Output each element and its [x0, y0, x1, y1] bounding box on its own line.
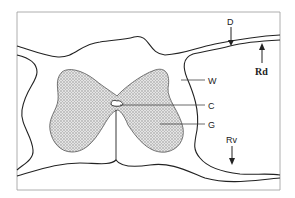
label-C: C	[208, 101, 215, 111]
label-Rv: Rv	[226, 135, 237, 145]
label-D: D	[227, 17, 234, 27]
gray-matter	[50, 69, 184, 152]
dura-outer-top	[17, 35, 280, 57]
spinal-cord-diagram: D Rd W C G Rv	[0, 0, 295, 198]
dura-outer-bottom	[17, 167, 280, 188]
label-W: W	[208, 76, 217, 86]
label-G: G	[208, 120, 215, 130]
label-Rd: Rd	[255, 66, 268, 77]
diagram-canvas: D Rd W C G Rv	[0, 0, 295, 198]
arrow-Rd-head	[259, 43, 265, 50]
arrow-Rv-head	[229, 158, 235, 165]
